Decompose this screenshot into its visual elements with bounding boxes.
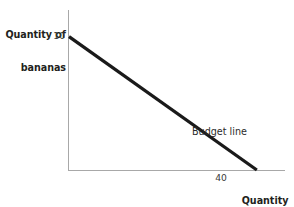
budget-line-chart: Quantity of bananas 10 Quantity of apple… [0,0,294,207]
y-axis-title: Quantity of bananas [5,7,66,95]
x-axis-title: Quantity of apples [239,173,288,207]
x-axis-title-line1: Quantity [239,195,288,206]
y-axis-tick-label-10: 10 [53,31,65,42]
y-axis-title-line2: bananas [5,62,66,73]
budget-line-series [69,37,257,170]
x-axis-tick-label-40: 40 [211,173,231,184]
budget-line-annotation: Budget line [192,126,247,137]
